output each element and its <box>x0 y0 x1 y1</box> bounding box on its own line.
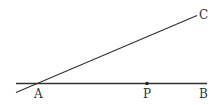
point-P-dot <box>145 82 149 86</box>
line-AC <box>16 16 197 93</box>
label-B: B <box>199 87 208 101</box>
label-A: A <box>33 87 43 101</box>
label-P: P <box>143 87 151 101</box>
geometry-diagram: A P B C <box>0 0 221 105</box>
label-C: C <box>199 8 208 22</box>
